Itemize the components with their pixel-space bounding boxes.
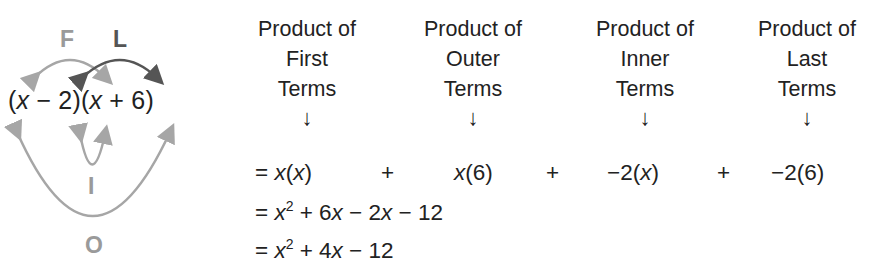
header-line: Product of — [732, 14, 874, 44]
header-line: Inner — [570, 44, 720, 74]
header-inner-terms: Product of Inner Terms ↓ — [570, 14, 720, 132]
foil-diagram: F L I O (x − 2)(x + 6) — [0, 0, 230, 277]
header-first-terms: Product of First Terms ↓ — [232, 14, 382, 132]
equals: = — [255, 238, 274, 263]
inner-product: −2(x) — [607, 160, 659, 186]
outer-label: O — [85, 232, 103, 259]
header-line: Product of — [570, 14, 720, 44]
last-product: −2(6) — [771, 160, 824, 186]
variable: x — [332, 238, 343, 263]
header-line: Terms — [732, 74, 874, 104]
variable: x — [640, 160, 651, 185]
paren: ( — [8, 86, 17, 114]
header-line: Product of — [398, 14, 548, 44]
down-arrow-icon: ↓ — [732, 104, 874, 132]
header-line: First — [232, 44, 382, 74]
down-arrow-icon: ↓ — [570, 104, 720, 132]
expr-part: + 6 — [293, 200, 331, 225]
expr-part: + 6) — [102, 86, 154, 114]
expr-part: (6) — [465, 160, 493, 185]
variable: x — [332, 200, 343, 225]
variable: x — [274, 160, 285, 185]
step-line-2: = x2 + 6x − 2x − 12 — [255, 200, 443, 226]
variable: x — [17, 86, 30, 114]
header-line: Product of — [232, 14, 382, 44]
expr-part: − 12 — [343, 238, 394, 263]
equals: = — [255, 200, 274, 225]
variable: x — [274, 238, 285, 263]
header-outer-terms: Product of Outer Terms ↓ — [398, 14, 548, 132]
binomial-expression: (x − 2)(x + 6) — [8, 86, 154, 115]
variable: x — [293, 160, 304, 185]
expr-part: − 2 — [343, 200, 381, 225]
variable: x — [381, 200, 392, 225]
expr-part: −2( — [607, 160, 640, 185]
variable: x — [89, 86, 102, 114]
header-line: Terms — [398, 74, 548, 104]
header-line: Terms — [232, 74, 382, 104]
expr-part: − 12 — [392, 200, 443, 225]
inner-label: I — [88, 173, 94, 200]
first-product: = x(x) — [255, 160, 312, 186]
down-arrow-icon: ↓ — [398, 104, 548, 132]
variable: x — [454, 160, 465, 185]
header-line: Terms — [570, 74, 720, 104]
variable: x — [274, 200, 285, 225]
first-label: F — [60, 26, 74, 53]
equals: = — [255, 160, 274, 185]
step-line-3: = x2 + 4x − 12 — [255, 238, 394, 264]
down-arrow-icon: ↓ — [232, 104, 382, 132]
plus-sign: + — [546, 160, 559, 186]
paren: ) — [304, 160, 312, 185]
paren: ) — [651, 160, 659, 185]
plus-sign: + — [717, 160, 730, 186]
header-line: Last — [732, 44, 874, 74]
outer-product: x(6) — [454, 160, 493, 186]
header-line: Outer — [398, 44, 548, 74]
expr-part: − 2)( — [29, 86, 89, 114]
expr-part: + 4 — [293, 238, 331, 263]
plus-sign: + — [381, 160, 394, 186]
header-last-terms: Product of Last Terms ↓ — [732, 14, 874, 132]
last-label: L — [113, 26, 127, 53]
